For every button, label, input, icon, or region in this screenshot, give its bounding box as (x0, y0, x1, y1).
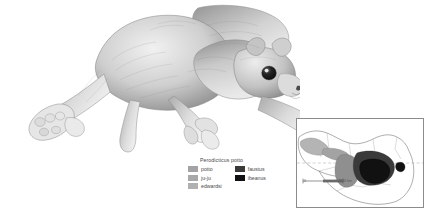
legend-item: ju-ju (188, 175, 222, 181)
potto-illustration (0, 0, 300, 150)
legend-item-label: edwardsi (201, 183, 222, 189)
figure-canvas: Perodicticus potto potto ju-ju edwardsi (0, 0, 425, 210)
legend-swatch (235, 175, 245, 181)
legend-swatch (188, 183, 198, 189)
legend: Perodicticus potto potto ju-ju edwardsi (188, 157, 293, 202)
legend-item-label: potto (201, 166, 213, 172)
legend-item-label: faustus (248, 166, 265, 172)
legend-swatch (188, 166, 198, 172)
legend-item: edwardsi (188, 183, 222, 189)
legend-column-right: faustus ibeanus (235, 166, 266, 189)
legend-item: potto (188, 166, 222, 172)
legend-title: Perodicticus potto (200, 157, 293, 163)
distribution-inset-map: 0 2000 km (296, 118, 424, 208)
legend-item-label: ju-ju (201, 175, 211, 181)
legend-item: ibeanus (235, 175, 266, 181)
map-scale-zero: 0 (304, 179, 306, 183)
map-scale-value: 2000 km (338, 179, 352, 183)
legend-column-left: potto ju-ju edwardsi (188, 166, 222, 189)
legend-swatch (235, 166, 245, 172)
legend-item-label: ibeanus (248, 175, 266, 181)
legend-item: faustus (235, 166, 266, 172)
legend-swatch (188, 175, 198, 181)
map-scale-label: 0 2000 km (304, 179, 352, 183)
